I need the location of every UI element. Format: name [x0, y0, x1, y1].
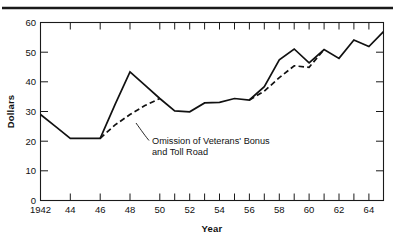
- x-tick-labels: 1942 44 46 48 50 52 54 56 58 60 62 64: [30, 204, 374, 215]
- x-tick-label: 44: [65, 204, 76, 215]
- x-tick-label: 58: [274, 204, 285, 215]
- y-tick-labels: 60 50 40 30 20 10 0: [25, 17, 36, 206]
- y-axis-ticks: [41, 23, 49, 201]
- x-tick-label: 52: [184, 204, 195, 215]
- chart-figure: 60 50 40 30 20 10 0 1942 44 46 48 50 52 …: [0, 0, 396, 239]
- x-tick-label: 1942: [30, 204, 51, 215]
- x-tick-label: 48: [125, 204, 136, 215]
- y-axis-right-ticks: [376, 52, 384, 171]
- y-tick-label: 20: [25, 136, 36, 147]
- annotation-line-2: and Toll Road: [152, 147, 208, 157]
- x-tick-label: 50: [155, 204, 166, 215]
- annotation-line-1: Omission of Veterans' Bonus: [152, 136, 270, 146]
- line-chart-svg: 60 50 40 30 20 10 0 1942 44 46 48 50 52 …: [0, 0, 396, 239]
- y-tick-label: 50: [25, 47, 36, 58]
- x-tick-label: 46: [95, 204, 106, 215]
- y-tick-label: 30: [25, 106, 36, 117]
- annotation-leader-line: [136, 123, 149, 141]
- x-tick-label: 64: [364, 204, 375, 215]
- series-omission-line-late: [249, 50, 324, 101]
- series-total-line: [41, 32, 384, 139]
- x-tick-label: 54: [214, 204, 225, 215]
- x-tick-label: 60: [304, 204, 315, 215]
- x-axis-title: Year: [202, 223, 223, 234]
- x-tick-label: 62: [334, 204, 345, 215]
- y-tick-label: 10: [25, 165, 36, 176]
- x-tick-label: 56: [244, 204, 255, 215]
- y-tick-label: 60: [25, 17, 36, 28]
- y-axis-title: Dollars: [5, 95, 16, 129]
- y-tick-label: 40: [25, 76, 36, 87]
- plot-frame: [41, 23, 384, 201]
